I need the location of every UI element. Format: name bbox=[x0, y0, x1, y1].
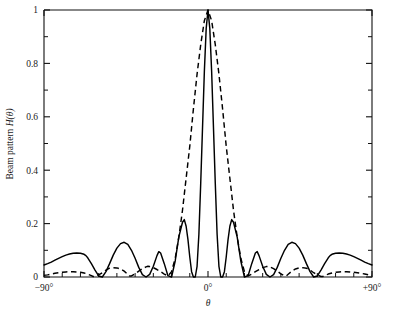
beam-pattern-chart: 00.20.40.60.81 −90°0°+90° θ Beam pattern… bbox=[0, 0, 395, 313]
svg-text:Beam pattern H(θ): Beam pattern H(θ) bbox=[5, 108, 16, 179]
y-tick-label: 0.6 bbox=[26, 112, 38, 122]
y-tick-label: 0 bbox=[33, 272, 38, 282]
y-axis-title-prefix: Beam pattern bbox=[5, 126, 15, 179]
y-tick-label: 1 bbox=[33, 5, 38, 15]
y-tick-label: 0.2 bbox=[26, 219, 38, 229]
x-tick-label: −90° bbox=[35, 283, 54, 293]
x-axis-title: θ bbox=[206, 298, 211, 308]
beam-pattern-figure: 00.20.40.60.81 −90°0°+90° θ Beam pattern… bbox=[0, 0, 395, 313]
x-tick-label: +90° bbox=[363, 283, 382, 293]
y-tick-label: 0.8 bbox=[26, 59, 38, 69]
y-axis-title: Beam pattern H(θ) bbox=[5, 108, 16, 179]
svg-text:θ: θ bbox=[206, 298, 211, 308]
x-tick-label: 0° bbox=[204, 283, 213, 293]
y-axis-title-argument: (θ) bbox=[5, 108, 16, 119]
y-tick-label: 0.4 bbox=[26, 166, 38, 176]
x-axis-title-text: θ bbox=[206, 298, 211, 308]
